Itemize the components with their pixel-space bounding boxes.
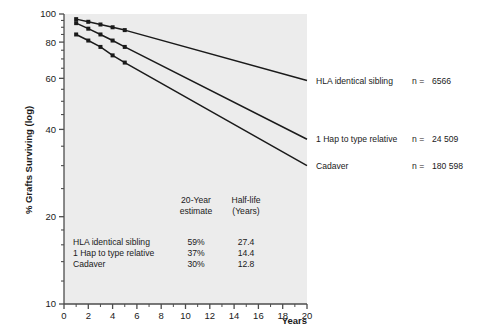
x-tick-label: 4: [110, 310, 115, 321]
data-point-marker: [74, 21, 78, 25]
x-tick-label: 14: [229, 310, 240, 321]
y-tick-label: 100: [40, 8, 56, 19]
x-axis-title: Years: [282, 315, 307, 326]
table-header-estimate-line1: 20-Year: [181, 195, 211, 205]
data-point-marker: [111, 53, 115, 57]
data-point-marker: [86, 20, 90, 24]
x-tick-label: 10: [180, 310, 191, 321]
table-row-halflife-3: 12.8: [238, 259, 255, 269]
x-tick-label: 6: [134, 310, 139, 321]
table-row-label-3: Cadaver: [73, 259, 106, 269]
series-label-1: HLA identical sibling: [316, 76, 393, 86]
x-tick-label: 8: [159, 310, 164, 321]
data-point-marker: [74, 17, 78, 21]
table-row-estimate-1: 59%: [187, 237, 205, 247]
data-point-marker: [123, 45, 127, 49]
table-row-estimate-3: 30%: [187, 259, 205, 269]
data-point-marker: [98, 32, 102, 36]
x-tick-label: 0: [61, 310, 66, 321]
y-axis-title: % Grafts Surviving (log): [23, 106, 34, 214]
data-point-marker: [111, 39, 115, 43]
series-n-value-2: 24 509: [432, 134, 459, 144]
data-point-marker: [98, 45, 102, 49]
table-row-halflife-1: 27.4: [238, 237, 255, 247]
y-tick-label: 80: [45, 37, 56, 48]
table-header-halflife-line2: (Years): [232, 206, 260, 216]
data-point-marker: [86, 39, 90, 43]
x-tick-label: 12: [205, 310, 216, 321]
table-header-estimate-line2: estimate: [180, 206, 213, 216]
series-n-equals-1: n =: [412, 76, 424, 86]
y-tick-label: 20: [45, 211, 56, 222]
chart-figure: 1020406080100 02468101214161820 % Grafts…: [0, 0, 481, 332]
table-row-halflife-2: 14.4: [238, 248, 255, 258]
series-n-value-3: 180 598: [432, 161, 463, 171]
data-point-marker: [123, 28, 127, 32]
graft-survival-chart: 1020406080100 02468101214161820 % Grafts…: [0, 0, 481, 332]
data-point-marker: [74, 32, 78, 36]
x-tick-label: 16: [253, 310, 264, 321]
data-point-marker: [123, 61, 127, 65]
series-label-3: Cadaver: [316, 161, 349, 171]
data-point-marker: [111, 25, 115, 29]
y-tick-label: 10: [45, 298, 56, 309]
table-row-label-2: 1 Hap to type relative: [73, 248, 154, 258]
y-tick-label: 60: [45, 73, 56, 84]
series-label-2: 1 Hap to type relative: [316, 134, 397, 144]
series-n-equals-3: n =: [412, 161, 424, 171]
x-tick-label: 2: [86, 310, 91, 321]
data-point-marker: [98, 23, 102, 27]
y-tick-label: 40: [45, 124, 56, 135]
series-n-equals-2: n =: [412, 134, 424, 144]
data-point-marker: [86, 27, 90, 31]
series-n-value-1: 6566: [432, 76, 451, 86]
table-row-label-1: HLA identical sibling: [73, 237, 150, 247]
table-row-estimate-2: 37%: [187, 248, 205, 258]
table-header-halflife-line1: Half-life: [231, 195, 260, 205]
